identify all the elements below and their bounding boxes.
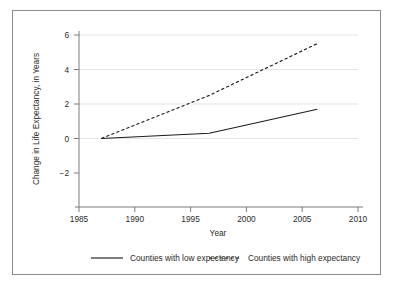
y-tick-label-neg2: −2	[60, 168, 70, 178]
y-axis-title: Change in Life Expectancy, in Years	[31, 53, 41, 185]
chart-legend: Counties with low expectancy Counties wi…	[91, 253, 361, 263]
series-low-expectancy	[101, 109, 317, 138]
x-tick-label-1985: 1985	[70, 214, 89, 224]
gridlines	[79, 35, 358, 139]
x-tick-label-2000: 2000	[237, 214, 256, 224]
legend-label-low: Counties with low expectancy	[130, 253, 240, 263]
y-tick-label-2: 2	[64, 99, 69, 109]
x-tick-label-2010: 2010	[349, 214, 368, 224]
x-tick-label-1990: 1990	[126, 214, 145, 224]
x-axis-title: Year	[210, 228, 227, 238]
y-tick-label-4: 4	[64, 65, 69, 75]
y-tick-label-6: 6	[64, 30, 69, 40]
figure-panel: 6 4 2 0 −2 Change in Life Expectancy, in…	[12, 10, 381, 275]
series-high-expectancy	[101, 44, 317, 139]
y-axis-tick-labels: 6 4 2 0 −2	[60, 30, 70, 178]
line-chart: 6 4 2 0 −2 Change in Life Expectancy, in…	[13, 11, 380, 274]
y-axis-ticks	[74, 35, 79, 173]
x-axis-ticks	[79, 207, 358, 212]
legend-label-high: Counties with high expectancy	[248, 253, 361, 263]
x-tick-label-1995: 1995	[181, 214, 200, 224]
y-tick-label-0: 0	[64, 134, 69, 144]
x-axis-tick-labels: 1985 1990 1995 2000 2005 2010	[70, 214, 368, 224]
x-tick-label-2005: 2005	[293, 214, 312, 224]
